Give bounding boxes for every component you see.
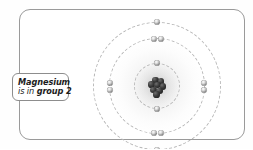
callout-group-value: group 2: [37, 86, 72, 96]
nucleon: [153, 91, 159, 97]
electron-middle-top-left: [151, 37, 156, 42]
nucleus: [147, 77, 167, 95]
electron-outer-top: [155, 20, 160, 25]
electron-outer-bottom: [155, 148, 160, 150]
electron-middle-left-upper: [108, 80, 113, 85]
callout-group-prefix: is in: [18, 86, 37, 96]
electron-middle-bottom-left: [151, 131, 156, 136]
electron-middle-left-lower: [108, 87, 113, 92]
electron-middle-top-right: [158, 37, 163, 42]
electron-middle-bottom-right: [158, 131, 163, 136]
electron-middle-right-lower: [202, 87, 207, 92]
magnesium-atom-figure: Magnesium is in group 2: [0, 0, 253, 149]
callout-box: Magnesium is in group 2: [12, 73, 69, 101]
callout-group-text: is in group 2: [18, 87, 72, 96]
electron-middle-right-upper: [202, 80, 207, 85]
electron-inner-top: [155, 61, 160, 66]
electron-inner-bottom: [155, 107, 160, 112]
